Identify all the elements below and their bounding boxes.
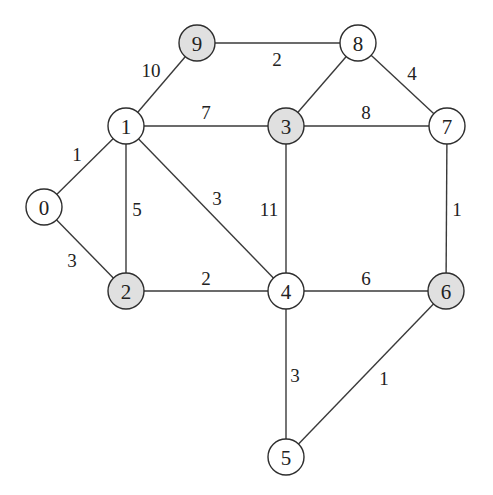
node-3: 3 (268, 108, 304, 144)
edge-weight-4-6: 6 (361, 268, 371, 289)
node-label: 0 (39, 196, 50, 220)
weighted-graph: 13510732481112631 0123456789 (0, 0, 493, 495)
node-0: 0 (26, 189, 62, 225)
edges-layer (44, 43, 447, 457)
edge-weight-7-6: 1 (452, 199, 462, 220)
edge-weight-8-7: 4 (407, 63, 417, 84)
node-6: 6 (428, 273, 464, 309)
edge-weight-1-4: 3 (212, 188, 222, 209)
edge-weight-0-1: 1 (72, 144, 82, 165)
node-label: 5 (281, 446, 292, 470)
edge-weight-1-2: 5 (132, 199, 142, 220)
node-9: 9 (179, 25, 215, 61)
edge-7-6 (446, 126, 447, 291)
edge-6-5 (286, 291, 446, 457)
edge-weight-3-4: 11 (260, 199, 278, 220)
node-label: 2 (121, 280, 132, 304)
node-5: 5 (268, 439, 304, 475)
node-1: 1 (108, 108, 144, 144)
edge-weight-9-8: 2 (272, 49, 282, 70)
node-label: 1 (121, 115, 132, 139)
edge-weight-0-2: 3 (67, 250, 77, 271)
node-label: 4 (281, 280, 292, 304)
edge-weight-4-5: 3 (290, 365, 300, 386)
edge-weight-1-3: 7 (201, 102, 211, 123)
node-4: 4 (268, 273, 304, 309)
node-label: 3 (281, 115, 292, 139)
edge-weight-3-7: 8 (361, 102, 371, 123)
node-label: 8 (353, 32, 364, 56)
node-label: 6 (441, 280, 452, 304)
edge-weight-2-4: 2 (201, 268, 211, 289)
edge-weight-1-9: 10 (142, 60, 161, 81)
node-label: 7 (442, 115, 453, 139)
edge-weight-6-5: 1 (379, 368, 389, 389)
node-2: 2 (108, 273, 144, 309)
node-label: 9 (192, 32, 203, 56)
node-8: 8 (340, 25, 376, 61)
node-7: 7 (429, 108, 465, 144)
